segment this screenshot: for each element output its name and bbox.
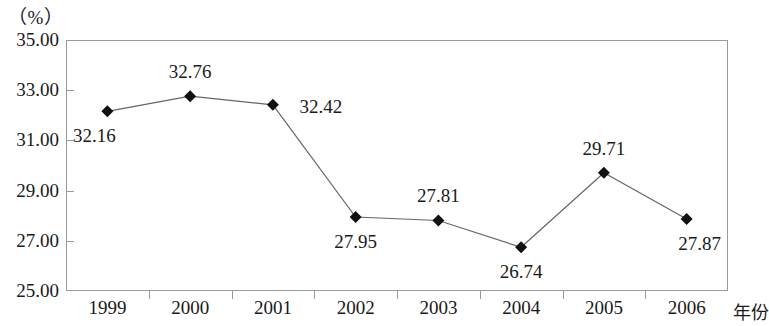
line-chart: （%） 35.0033.0031.0029.0027.0025.00 19992… <box>0 0 769 326</box>
series-layer <box>0 0 769 326</box>
data-point-label: 29.71 <box>583 138 626 160</box>
data-point-marker <box>184 90 196 102</box>
data-point-marker <box>350 211 362 223</box>
data-point-label: 27.81 <box>417 185 460 207</box>
series-markers <box>101 90 692 253</box>
data-point-label: 32.42 <box>300 96 343 118</box>
data-point-label: 32.16 <box>73 125 116 147</box>
data-point-marker <box>681 213 693 225</box>
data-point-label: 26.74 <box>500 261 543 283</box>
x-axis-name: 年份 <box>733 298 769 324</box>
data-point-label: 27.87 <box>678 233 721 255</box>
data-point-marker <box>101 105 113 117</box>
data-point-marker <box>267 99 279 111</box>
data-point-label: 32.76 <box>169 61 212 83</box>
data-point-marker <box>432 214 444 226</box>
data-point-label: 27.95 <box>334 231 377 253</box>
